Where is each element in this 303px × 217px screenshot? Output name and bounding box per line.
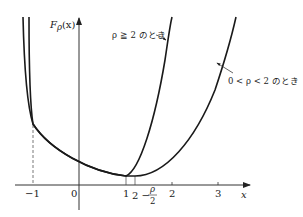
svg-text:2 −: 2 − xyxy=(132,190,150,201)
x-axis-label: x xyxy=(241,189,247,200)
tick-label-3: 3 xyxy=(215,188,221,199)
tick-label-minus-1: −1 xyxy=(25,188,40,199)
svg-text:2: 2 xyxy=(150,196,155,206)
tick-label-1: 1 xyxy=(123,188,129,199)
y-axis-label: Fρ(x) xyxy=(49,19,75,32)
function-plot: Fρ(x) x −1 0 1 2 3 2 − ρ 2 ρ ≧ 2 のとき 0 <… xyxy=(0,0,303,217)
tick-label-2: 2 xyxy=(169,188,175,199)
annotation-arrow-rho-between-0-2 xyxy=(217,63,233,73)
svg-text:ρ: ρ xyxy=(149,184,155,194)
curve-rho-between-0-2 xyxy=(29,17,236,176)
annotation-rho-between-0-2: 0 < ρ < 2 のとき xyxy=(228,76,299,86)
tick-label-0: 0 xyxy=(71,188,77,199)
annotation-rho-ge-2: ρ ≧ 2 のとき xyxy=(112,30,166,40)
curve-rho-ge-2 xyxy=(23,17,172,176)
tick-label-2-minus-rho-half: 2 − ρ 2 xyxy=(132,184,157,206)
